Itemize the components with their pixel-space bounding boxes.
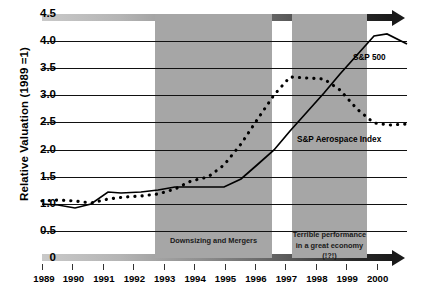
x-tick-1991: 1991 — [93, 273, 114, 284]
x-tickmark-1991 — [103, 264, 104, 270]
relative-valuation-chart: Relative Valuation (1989 =1) S&P 500 S&P… — [0, 0, 429, 299]
series-label-sp500: S&P 500 — [353, 53, 386, 62]
x-tickmark-1998 — [316, 264, 317, 270]
x-tickmark-1992 — [133, 264, 134, 270]
y-tick-2.5: 2.5 — [26, 116, 56, 128]
plot-area: S&P 500 S&P Aerospace Index Downsizing a… — [42, 14, 407, 258]
y-tick-1.0: 1.0 — [26, 198, 56, 210]
x-tick-1990: 1990 — [63, 273, 84, 284]
x-tickmark-2000 — [377, 264, 378, 270]
x-tickmark-1999 — [346, 264, 347, 270]
x-tickmark-1996 — [255, 264, 256, 270]
x-tick-1989: 1989 — [33, 273, 54, 284]
y-tick-0.5: 0.5 — [26, 225, 56, 237]
x-tick-1996: 1996 — [245, 273, 266, 284]
x-tickmark-1997 — [285, 264, 286, 270]
x-tickmark-1990 — [72, 264, 73, 270]
x-tickmark-1995 — [225, 264, 226, 270]
x-tickmark-1989 — [42, 264, 43, 270]
y-tick-3.5: 3.5 — [26, 62, 56, 74]
x-tick-1999: 1999 — [337, 273, 358, 284]
x-tickmark-1994 — [194, 264, 195, 270]
y-tick-1.5: 1.5 — [26, 171, 56, 183]
x-tick-1992: 1992 — [124, 273, 145, 284]
x-axis: 1989 1990 1991 1992 1993 1994 1995 1996 … — [42, 258, 407, 298]
y-tick-2.0: 2.0 — [26, 144, 56, 156]
x-tick-1998: 1998 — [306, 273, 327, 284]
annotation-terrible-line1: Terrible performance — [289, 230, 370, 241]
y-tick-3.0: 3.0 — [26, 89, 56, 101]
series-label-aerospace: S&P Aerospace Index — [297, 135, 381, 144]
annotation-downsizing: Downsizing and Mergers — [155, 236, 272, 247]
x-tickmark-1993 — [164, 264, 165, 270]
y-tick-4.0: 4.0 — [26, 35, 56, 47]
x-tick-1995: 1995 — [215, 273, 236, 284]
x-tick-2000: 2000 — [367, 273, 388, 284]
x-tick-1997: 1997 — [276, 273, 297, 284]
x-tick-1994: 1994 — [184, 273, 205, 284]
y-tick-4.5: 4.5 — [26, 8, 56, 20]
x-tick-1993: 1993 — [154, 273, 175, 284]
